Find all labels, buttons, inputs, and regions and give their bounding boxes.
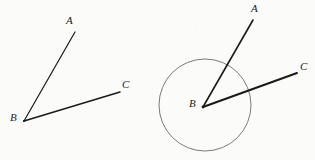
geometry-figure-canvas: A B C A B C [0,0,315,160]
geometry-vector-layer [0,0,315,160]
left-label-a: A [66,15,73,26]
right-angle-group [159,20,297,151]
left-vertex-point [23,120,25,122]
right-label-a: A [251,3,258,14]
left-angle-group [23,32,120,122]
right-label-b: B [189,98,196,109]
right-label-c: C [300,61,307,72]
right-ray-ba [203,20,253,107]
right-ray-bc [203,73,297,107]
left-label-c: C [122,79,129,90]
right-vertex-point [202,106,205,109]
left-label-b: B [10,112,17,123]
